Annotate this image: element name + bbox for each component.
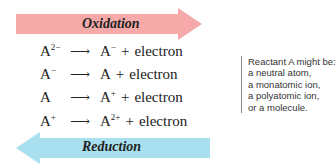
- electron-label: electron: [139, 113, 187, 129]
- product: A−: [100, 43, 116, 59]
- reactant-note: Reactant A might be: a neutral atom, a m…: [241, 56, 336, 113]
- product: A: [100, 66, 111, 82]
- electron-label: electron: [129, 66, 177, 82]
- reaction-arrow: ⟶: [60, 87, 100, 109]
- equation-row: A⟶A++electron: [40, 86, 183, 108]
- reactant: A−: [40, 63, 60, 85]
- reaction-arrow: ⟶: [60, 64, 100, 86]
- equation-row: A2−⟶A−+electron: [40, 40, 183, 62]
- plus-sign: +: [111, 66, 129, 82]
- note-line: a neutral atom,: [248, 67, 336, 78]
- note-line: or a molecule.: [248, 102, 336, 113]
- electron-label: electron: [134, 89, 182, 105]
- equation-row: A−⟶A+electron: [40, 63, 178, 85]
- product: A2+: [100, 113, 120, 129]
- electron-label: electron: [134, 43, 182, 59]
- reactant: A: [40, 86, 60, 108]
- reaction-arrow: ⟶: [60, 111, 100, 133]
- plus-sign: +: [116, 89, 134, 105]
- reduction-label: Reduction: [82, 139, 141, 155]
- equation-row: A+⟶A2++electron: [40, 110, 187, 132]
- note-line: Reactant A might be:: [248, 56, 336, 67]
- oxidation-label: Oxidation: [82, 16, 140, 32]
- note-line: a monatomic ion,: [248, 79, 336, 90]
- note-line: a polyatomic ion,: [248, 90, 336, 101]
- reactant: A+: [40, 110, 60, 132]
- product: A+: [100, 89, 116, 105]
- plus-sign: +: [116, 43, 134, 59]
- reactant: A2−: [40, 40, 60, 62]
- reaction-arrow: ⟶: [60, 41, 100, 63]
- plus-sign: +: [120, 113, 138, 129]
